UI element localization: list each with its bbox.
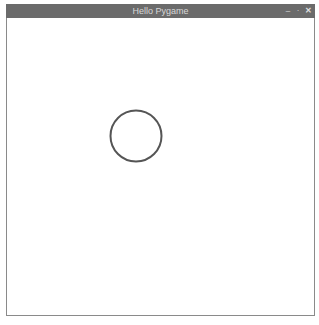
circle-shape xyxy=(111,111,162,162)
drawing-layer xyxy=(0,0,319,325)
